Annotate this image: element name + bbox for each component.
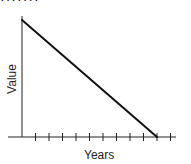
line-chart xyxy=(0,0,191,164)
value-line xyxy=(22,20,157,137)
x-axis-label: Years xyxy=(84,148,114,162)
y-axis-label: Value xyxy=(5,59,19,99)
